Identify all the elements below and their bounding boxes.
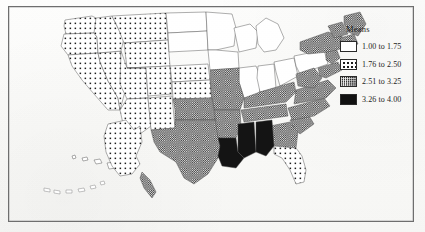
state-michigan: [256, 18, 284, 52]
state-hawaii-2: [82, 157, 88, 161]
legend-entry-4: 3.26 to 4.00: [340, 93, 414, 106]
state-wisconsin: [234, 24, 258, 52]
state-hawaii-3: [94, 159, 102, 164]
state-indiana: [257, 64, 276, 92]
state-south-dakota: [168, 31, 208, 52]
aleutian-island-3: [78, 188, 85, 192]
state-missouri: [210, 68, 244, 110]
legend-swatch-blank: [340, 41, 357, 52]
state-alabama: [256, 120, 274, 156]
state-washington: [64, 16, 98, 34]
legend-label-4: 3.26 to 4.00: [362, 95, 401, 104]
state-kansas: [172, 80, 212, 99]
state-nebraska: [170, 64, 210, 82]
legend-swatch-sparse: [340, 59, 357, 70]
legend-label-2: 1.76 to 2.50: [362, 60, 401, 69]
region-group-panhandle: [140, 172, 156, 198]
state-hawaii-1: [72, 155, 76, 159]
state-wyoming: [124, 40, 170, 68]
state-arkansas: [214, 110, 241, 138]
aleutian-island-2: [90, 185, 96, 189]
legend-entry-1: 1.00 to 1.75: [340, 40, 414, 53]
aleutian-island-1: [100, 181, 105, 185]
state-florida: [274, 146, 306, 184]
legend-label-1: 1.00 to 1.75: [362, 42, 401, 51]
aleutian-island-4: [66, 190, 72, 193]
state-texas: [151, 120, 226, 184]
region-group-aleutians: [44, 181, 105, 194]
legend-swatch-dense: [340, 76, 357, 87]
state-north-dakota: [166, 12, 207, 33]
legend-entry-2: 1.76 to 2.50: [340, 58, 414, 71]
state-mississippi: [238, 122, 256, 158]
legend-swatch-solid: [340, 94, 357, 105]
legend-title: Means: [346, 24, 414, 34]
legend-entry-3: 2.51 to 3.25: [340, 75, 414, 88]
state-iowa: [208, 50, 239, 70]
state-minnesota: [206, 12, 236, 50]
aleutian-island-6: [44, 188, 50, 192]
legend-label-3: 2.51 to 3.25: [362, 77, 401, 86]
state-new-mexico: [148, 96, 175, 130]
legend: Means 1.00 to 1.75 1.76 to 2.50 2.51 to …: [340, 24, 414, 110]
state-ohio: [274, 58, 298, 86]
aleutian-island-5: [54, 190, 60, 194]
state-oregon: [61, 33, 98, 55]
region-group-florida: [274, 146, 306, 184]
figure-choropleth-map: Means 1.00 to 1.75 1.76 to 2.50 2.51 to …: [0, 0, 425, 232]
alaska-panhandle: [140, 172, 156, 198]
